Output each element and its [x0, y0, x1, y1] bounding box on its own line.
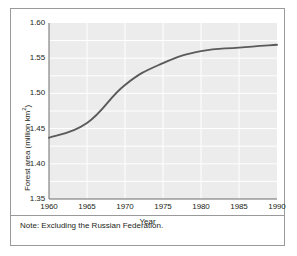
figure-panel: Forest area (million km2) 1.351.401.451.…	[10, 8, 285, 246]
plot-canvas	[11, 9, 284, 245]
chart-area: Forest area (million km2) 1.351.401.451.…	[11, 9, 284, 245]
note-divider	[11, 215, 284, 216]
figure-note: Note: Excluding the Russian Federation.	[20, 221, 163, 230]
